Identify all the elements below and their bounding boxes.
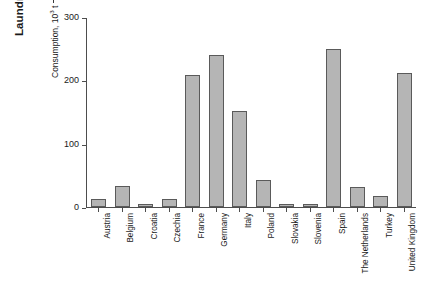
x-axis-tick	[98, 208, 99, 212]
x-axis-tick-slot	[393, 208, 417, 212]
x-axis-labels: AustriaBelgiumCroatiaCzechiaFranceGerman…	[87, 213, 416, 283]
x-axis-tick-slot	[346, 208, 370, 212]
page-title: Laundry Detergents	[8, 0, 30, 36]
bar-slot	[228, 18, 252, 207]
x-axis-label-slot: Slovenia	[299, 213, 323, 283]
x-axis-label-slot: France	[181, 213, 205, 283]
x-axis-tick-slot	[252, 208, 276, 212]
x-axis-tick-slot	[369, 208, 393, 212]
x-axis-label-slot: Belgium	[111, 213, 135, 283]
y-axis-tick: 0	[82, 208, 86, 209]
bar-france[interactable]	[185, 75, 200, 207]
bar-czechia[interactable]	[162, 199, 177, 207]
x-axis-ticks	[87, 208, 416, 212]
y-axis-label: Consumption, 103 t	[44, 0, 60, 78]
x-axis-label-slot: Turkey	[369, 213, 393, 283]
bar-slot	[322, 18, 346, 207]
x-axis-tick-slot	[205, 208, 229, 212]
bar-slot	[346, 18, 370, 207]
x-axis-tick	[357, 208, 358, 212]
x-axis-tick-slot	[134, 208, 158, 212]
bar-slovakia[interactable]	[279, 204, 294, 207]
x-axis-tick	[216, 208, 217, 212]
y-axis-tick-label: 200	[64, 75, 79, 85]
bar-the-netherlands[interactable]	[350, 187, 365, 207]
bar-series	[87, 18, 416, 207]
y-axis-tick: 300	[82, 18, 86, 19]
x-axis-label-slot: United Kingdom	[393, 213, 417, 283]
y-axis-label-exponent: 3	[48, 10, 55, 13]
x-axis-tick	[310, 208, 311, 212]
x-axis-label-slot: The Netherlands	[346, 213, 370, 283]
x-axis-tick	[239, 208, 240, 212]
bar-slot	[299, 18, 323, 207]
y-axis-tick-label: 100	[64, 139, 79, 149]
bar-croatia[interactable]	[138, 204, 153, 207]
bar-slot	[87, 18, 111, 207]
x-axis-label-slot: Germany	[205, 213, 229, 283]
bar-germany[interactable]	[209, 55, 224, 207]
x-axis-tick-slot	[87, 208, 111, 212]
x-axis-tick-slot	[158, 208, 182, 212]
bar-slot	[252, 18, 276, 207]
bar-slot	[393, 18, 417, 207]
x-axis-tick	[380, 208, 381, 212]
y-axis-tick: 100	[82, 145, 86, 146]
y-axis-arrow-icon	[45, 0, 61, 3]
bar-slot	[275, 18, 299, 207]
bar-slot	[134, 18, 158, 207]
bar-belgium[interactable]	[115, 186, 130, 207]
bar-poland[interactable]	[256, 180, 271, 207]
x-axis-tick	[169, 208, 170, 212]
y-axis-tick-label: 300	[64, 12, 79, 22]
bar-italy[interactable]	[232, 111, 247, 207]
x-axis-tick-slot	[111, 208, 135, 212]
x-axis-tick	[122, 208, 123, 212]
y-axis-label-unit: t	[50, 6, 60, 8]
x-axis-tick	[404, 208, 405, 212]
bar-united-kingdom[interactable]	[397, 73, 412, 207]
bar-austria[interactable]	[91, 199, 106, 207]
x-axis-label-slot: Italy	[228, 213, 252, 283]
x-axis-tick	[263, 208, 264, 212]
x-axis-tick-slot	[322, 208, 346, 212]
bar-slot	[181, 18, 205, 207]
x-axis-tick-slot	[299, 208, 323, 212]
bar-turkey[interactable]	[373, 196, 388, 207]
y-axis-tick: 200	[82, 81, 86, 82]
x-axis-tick-slot	[275, 208, 299, 212]
bar-chart: Laundry Detergents Consumption, 103 t 01…	[0, 0, 429, 283]
x-axis-label-slot: Poland	[252, 213, 276, 283]
x-axis-label-slot: Spain	[322, 213, 346, 283]
x-axis-tick-slot	[228, 208, 252, 212]
x-axis-tick-slot	[181, 208, 205, 212]
x-axis-label-united-kingdom: United Kingdom	[408, 213, 417, 271]
x-axis-tick	[286, 208, 287, 212]
x-axis-label-slot: Croatia	[134, 213, 158, 283]
x-axis-tick	[192, 208, 193, 212]
bar-slot	[205, 18, 229, 207]
bar-spain[interactable]	[326, 49, 341, 207]
bar-slot	[111, 18, 135, 207]
plot-area: 0100200300	[86, 18, 416, 208]
y-axis-tick-label: 0	[74, 202, 79, 212]
x-axis-tick	[333, 208, 334, 212]
x-axis-label-slot: Czechia	[158, 213, 182, 283]
x-axis-tick	[145, 208, 146, 212]
bar-slot	[369, 18, 393, 207]
bar-slot	[158, 18, 182, 207]
x-axis-label-slot: Slovakia	[275, 213, 299, 283]
bar-slovenia[interactable]	[303, 204, 318, 207]
x-axis-label-slot: Austria	[87, 213, 111, 283]
y-axis-label-base: Consumption, 10	[50, 14, 60, 78]
y-axis-label-text: Consumption, 103 t	[50, 6, 60, 78]
